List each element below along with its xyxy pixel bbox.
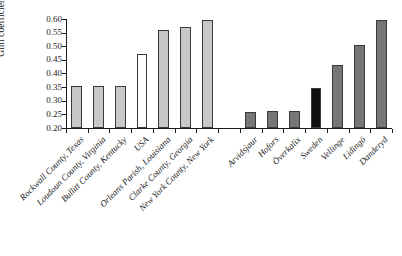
bar — [376, 20, 387, 128]
bar — [202, 20, 213, 128]
x-tick-mark — [349, 129, 350, 133]
y-tick-label: 0.20 — [36, 124, 62, 133]
x-tick-mark — [218, 129, 219, 133]
bar — [115, 86, 126, 129]
x-tick-mark — [283, 129, 284, 133]
x-tick-mark — [327, 129, 328, 133]
x-tick-mark — [66, 129, 67, 133]
y-tick-label: 0.30 — [36, 96, 62, 105]
x-tick-mark — [109, 129, 110, 133]
x-tick-mark — [196, 129, 197, 133]
y-tick-mark — [62, 33, 66, 34]
bar — [311, 88, 322, 128]
bar — [180, 27, 191, 128]
y-tick-mark — [62, 19, 66, 20]
plot-area — [66, 19, 392, 128]
y-axis-label: Gini coefficient — [0, 0, 8, 82]
x-tick-mark — [131, 129, 132, 133]
y-tick-mark — [62, 114, 66, 115]
x-tick-mark — [392, 129, 393, 133]
x-tick-mark — [305, 129, 306, 133]
y-tick-mark — [62, 101, 66, 102]
x-tick-mark — [88, 129, 89, 133]
y-tick-label: 0.40 — [36, 69, 62, 78]
y-tick-label: 0.60 — [36, 15, 62, 24]
gini-coefficient-bar-chart: Gini coefficient 0.600.550.500.450.400.3… — [0, 0, 402, 256]
y-tick-label: 0.45 — [36, 55, 62, 64]
x-tick-mark — [370, 129, 371, 133]
y-tick-label: 0.50 — [36, 42, 62, 51]
bar — [332, 65, 343, 128]
x-tick-mark — [262, 129, 263, 133]
y-tick-label: 0.25 — [36, 110, 62, 119]
x-tick-mark — [240, 129, 241, 133]
y-tick-mark — [62, 46, 66, 47]
x-axis-line — [66, 128, 392, 129]
y-tick-mark — [62, 87, 66, 88]
bar — [137, 54, 148, 128]
bar — [354, 45, 365, 128]
bar — [245, 112, 256, 128]
y-tick-mark — [62, 60, 66, 61]
y-tick-label: 0.35 — [36, 83, 62, 92]
y-tick-mark — [62, 73, 66, 74]
bar — [71, 86, 82, 128]
bar — [158, 30, 169, 128]
bar — [267, 111, 278, 128]
x-tick-mark — [153, 129, 154, 133]
bar — [93, 86, 104, 129]
bar — [289, 111, 300, 128]
y-tick-label: 0.55 — [36, 28, 62, 37]
x-tick-mark — [175, 129, 176, 133]
